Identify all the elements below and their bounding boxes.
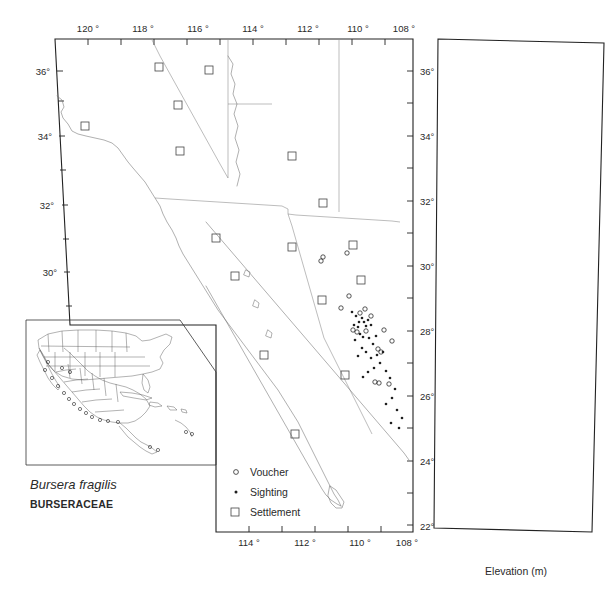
sighting-marker (357, 326, 360, 329)
lon-label-top-1: 118 ° (132, 23, 154, 34)
voucher-marker (355, 330, 359, 334)
lat-label-left-1: 34° (38, 131, 53, 142)
lon-label-bottom-1: 112 ° (294, 537, 316, 548)
sighting-marker (379, 362, 382, 365)
voucher-marker (347, 294, 351, 298)
species-name: Bursera fragilis (30, 477, 117, 492)
sighting-marker (361, 347, 364, 350)
legend-label-sighting: Sighting (250, 486, 288, 498)
map-frame (55, 39, 413, 532)
inset-geography (37, 330, 194, 454)
settlement-marker (205, 66, 213, 74)
sighting-marker (372, 343, 375, 346)
lon-ticks-top (88, 39, 385, 45)
settlement-marker (212, 234, 220, 242)
sighting-marker (355, 315, 358, 318)
legend-voucher-icon (234, 470, 239, 475)
map-panel (55, 39, 413, 532)
figure-canvas: 120 ° 118 ° 116 ° 114 ° 112 ° 110 ° 108 … (0, 0, 615, 595)
sighting-marker (375, 335, 378, 338)
lon-label-top-5: 110 ° (347, 23, 369, 34)
sighting-marker (382, 351, 385, 354)
settlement-marker (341, 371, 349, 379)
settlement-marker (81, 122, 89, 130)
settlement-marker (176, 147, 184, 155)
sighting-marker (373, 367, 376, 370)
lon-label-bottom-3: 108 ° (396, 537, 418, 548)
lat-label-right-2: 32° (420, 196, 435, 207)
lat-label-right-0: 36° (420, 66, 435, 77)
sighting-markers (351, 311, 404, 430)
lon-label-top-6: 108 ° (393, 23, 415, 34)
lon-label-top-4: 112 ° (297, 23, 319, 34)
sighting-marker (398, 427, 401, 430)
voucher-marker (319, 259, 323, 263)
elevation-frame (434, 39, 604, 532)
voucher-marker (382, 328, 386, 332)
sighting-marker (385, 403, 388, 406)
species-caption: Bursera fragilis BURSERACEAE (30, 477, 117, 510)
sighting-marker (391, 397, 394, 400)
sighting-marker (376, 354, 379, 357)
sighting-marker (396, 409, 399, 412)
settlement-marker (318, 296, 326, 304)
sighting-marker (353, 324, 356, 327)
legend: Voucher Sighting Settlement (231, 466, 300, 518)
settlement-marker (357, 276, 365, 284)
voucher-marker (387, 382, 391, 386)
lat-label-left-2: 32° (40, 200, 55, 211)
family-name: BURSERACEAE (30, 498, 113, 510)
settlement-marker (155, 63, 163, 71)
legend-settlement-icon (231, 508, 239, 516)
inset-map (26, 320, 216, 465)
map-axis-labels: 120 ° 118 ° 116 ° 114 ° 112 ° 110 ° 108 … (36, 23, 435, 548)
legend-label-settlement: Settlement (250, 506, 300, 518)
elevation-panel: Elevation (m) (434, 39, 604, 577)
inset-frame (26, 320, 216, 465)
distribution-map-figure: 120 ° 118 ° 116 ° 114 ° 112 ° 110 ° 108 … (0, 0, 615, 595)
sighting-marker (389, 377, 392, 380)
legend-sighting-icon (235, 491, 238, 494)
voucher-marker (377, 381, 381, 385)
lon-label-bottom-2: 110 ° (349, 537, 371, 548)
sighting-marker (370, 357, 373, 360)
lon-label-top-2: 116 ° (187, 23, 209, 34)
lat-label-right-5: 26° (420, 391, 435, 402)
sighting-marker (401, 417, 404, 420)
settlement-marker (231, 272, 239, 280)
lat-label-left-0: 36° (36, 66, 51, 77)
settlement-markers (81, 63, 365, 438)
settlement-marker (288, 152, 296, 160)
sighting-marker (365, 351, 368, 354)
voucher-marker (390, 339, 394, 343)
lon-label-top-3: 114 ° (242, 23, 264, 34)
settlement-marker (288, 243, 296, 251)
sighting-marker (367, 319, 370, 322)
sighting-marker (365, 325, 368, 328)
lat-label-right-7: 22° (420, 521, 435, 532)
settlement-marker (174, 101, 182, 109)
sighting-marker (370, 324, 373, 327)
sighting-marker (394, 388, 397, 391)
settlement-marker (319, 199, 327, 207)
map-geography (57, 40, 409, 508)
sighting-marker (390, 422, 393, 425)
sighting-marker (362, 376, 365, 379)
lat-label-right-3: 30° (420, 261, 435, 272)
sighting-marker (359, 333, 362, 336)
sighting-marker (368, 337, 371, 340)
lat-label-left-3: 30° (43, 267, 58, 278)
elevation-axis-title: Elevation (m) (485, 565, 547, 577)
sighting-marker (358, 321, 361, 324)
settlement-marker (349, 241, 357, 249)
sighting-marker (351, 311, 354, 314)
voucher-marker (363, 307, 367, 311)
voucher-marker (345, 251, 349, 255)
lon-ticks-bottom (249, 526, 381, 532)
sighting-marker (385, 370, 388, 373)
sighting-marker (362, 336, 365, 339)
lat-label-right-6: 24° (420, 456, 435, 467)
lon-label-bottom-0: 114 ° (238, 537, 260, 548)
sighting-marker (357, 355, 360, 358)
lat-ticks-left (57, 71, 72, 306)
